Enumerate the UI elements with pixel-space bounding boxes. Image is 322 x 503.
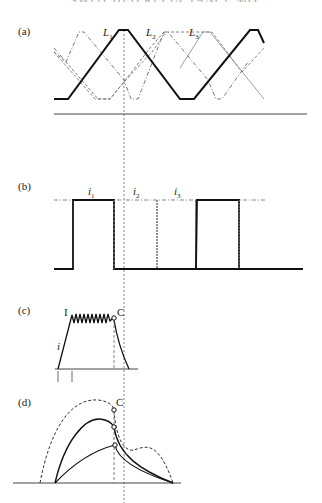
commutation-point-c bbox=[112, 316, 116, 320]
outer-dashed-curve bbox=[40, 400, 173, 483]
waveform-diagram bbox=[0, 0, 322, 503]
panel-d-curves bbox=[13, 400, 181, 483]
point-c-upper bbox=[112, 425, 116, 429]
l1-label: L1 bbox=[103, 26, 113, 41]
i3-label: i3 bbox=[174, 185, 181, 200]
current-i1-second-pulse bbox=[196, 200, 239, 269]
commutation-c-label: C bbox=[117, 306, 124, 318]
panel-b-label: (b) bbox=[18, 180, 31, 192]
panel-b-currents bbox=[54, 200, 303, 269]
current-level-i-label: I bbox=[64, 306, 68, 318]
panel-a-label: (a) bbox=[18, 25, 30, 37]
panel-c-chopped-current bbox=[55, 314, 138, 382]
current-i1-pulse bbox=[54, 200, 303, 269]
point-c-outer bbox=[112, 408, 116, 412]
l2-label: L2 bbox=[146, 26, 156, 41]
point-c-lower bbox=[113, 443, 117, 447]
chopped-current-waveform bbox=[58, 314, 113, 369]
l3-label: L3 bbox=[189, 26, 199, 41]
commutation-c-label-d: C bbox=[116, 396, 123, 408]
current-tail-curve bbox=[114, 320, 129, 369]
inductance-l3-curve-dashed bbox=[54, 32, 264, 99]
inductance-l2-curve bbox=[54, 32, 248, 99]
panel-c-label: (c) bbox=[18, 304, 30, 316]
panel-d-label: (d) bbox=[18, 396, 31, 408]
current-i-axis-label: i bbox=[57, 340, 60, 352]
inductance-l1-curve bbox=[54, 30, 264, 99]
panel-a-inductance bbox=[54, 30, 307, 114]
i1-label: i1 bbox=[88, 185, 95, 200]
i2-label: i2 bbox=[133, 185, 140, 200]
